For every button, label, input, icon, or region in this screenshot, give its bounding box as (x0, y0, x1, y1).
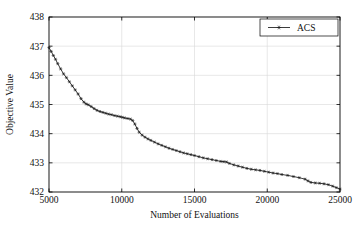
x-tick-label: 10000 (110, 195, 134, 205)
gridlines (49, 17, 340, 192)
x-tick-label: 5000 (40, 195, 59, 205)
x-axis-title: Number of Evaluations (150, 210, 239, 220)
y-tick-label: 434 (30, 129, 45, 139)
legend-entry-label: ACS (297, 23, 315, 33)
x-tick-label: 25000 (328, 195, 352, 205)
line-chart: 4324334344354364374385000100001500020000… (0, 0, 358, 238)
x-tick-label: 20000 (255, 195, 279, 205)
axis-tick-labels: 4324334344354364374385000100001500020000… (30, 12, 352, 205)
y-axis-title: Objective Value (5, 74, 15, 135)
chart-figure: 4324334344354364374385000100001500020000… (0, 0, 358, 238)
y-tick-label: 438 (30, 12, 45, 22)
y-tick-label: 435 (30, 100, 45, 110)
chart-legend[interactable]: ACS (260, 19, 338, 36)
y-tick-label: 437 (30, 42, 45, 52)
y-tick-label: 433 (30, 158, 45, 168)
y-tick-label: 436 (30, 71, 45, 81)
x-tick-label: 15000 (183, 195, 207, 205)
